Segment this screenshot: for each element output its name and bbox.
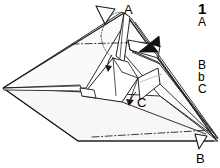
instruction-line-1: A bbox=[198, 16, 206, 28]
vertex-label-a: A bbox=[124, 3, 133, 16]
origami-figure bbox=[0, 0, 220, 168]
origami-diagram-page: A C B 1 A B b C bbox=[0, 0, 220, 168]
vertex-label-c: C bbox=[137, 96, 146, 109]
instruction-text-column: 1 A B b C bbox=[196, 0, 220, 168]
instruction-line-4: C bbox=[198, 83, 207, 95]
left-tab bbox=[80, 88, 96, 98]
step-number: 1 bbox=[198, 1, 206, 16]
